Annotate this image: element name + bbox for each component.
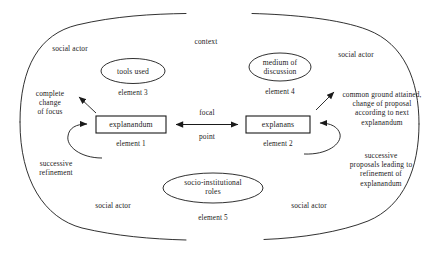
node-ellipse-tools-used (101, 59, 165, 84)
node-box-explanandum (96, 116, 166, 133)
arrow-successive-proposals (304, 123, 340, 154)
outer-context-boundary (20, 14, 419, 241)
arrow-complete-change-of-focus (79, 97, 96, 113)
arrow-common-ground-attained (316, 92, 334, 110)
diagram-canvas: context social actor social actor social… (0, 0, 441, 256)
node-box-explanans (246, 116, 310, 133)
node-ellipse-socio-institutional-roles (163, 173, 263, 203)
node-ellipse-medium-of-discussion (249, 53, 311, 81)
arrow-successive-refinement (68, 124, 102, 158)
diagram-vector-layer (0, 0, 441, 256)
